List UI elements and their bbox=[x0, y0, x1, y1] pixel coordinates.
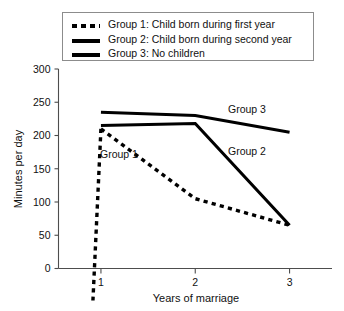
annotation-group-3: Group 3 bbox=[228, 103, 266, 115]
y-tick-label: 200 bbox=[33, 129, 51, 141]
x-tick-label: 2 bbox=[192, 276, 198, 288]
annotation-group-1: Group 1 bbox=[100, 148, 138, 160]
annotation-group-2: Group 2 bbox=[228, 145, 266, 157]
x-tick-group: 123 bbox=[98, 269, 293, 288]
y-axis-title: Minutes per day bbox=[12, 129, 24, 208]
y-tick-label: 250 bbox=[33, 96, 51, 108]
y-tick-label: 50 bbox=[39, 229, 51, 241]
y-axis: 050100150200250300 bbox=[33, 63, 59, 274]
x-axis: 123 bbox=[59, 269, 333, 288]
data-line-group-1 bbox=[101, 129, 290, 225]
plot-area: 050100150200250300 123 Minutes per day Y… bbox=[0, 0, 344, 311]
y-tick-label: 300 bbox=[33, 63, 51, 75]
x-tick-label: 1 bbox=[98, 276, 104, 288]
y-tick-group: 050100150200250300 bbox=[33, 63, 59, 274]
x-tick-label: 3 bbox=[287, 276, 293, 288]
line-chart: Group 1: Child born during first year Gr… bbox=[0, 0, 344, 311]
y-tick-label: 100 bbox=[33, 196, 51, 208]
y-tick-label: 150 bbox=[33, 163, 51, 175]
data-line-group-2 bbox=[101, 124, 290, 226]
data-series-group bbox=[93, 112, 290, 300]
y-tick-label: 0 bbox=[45, 262, 51, 274]
x-axis-title: Years of marriage bbox=[153, 292, 239, 304]
